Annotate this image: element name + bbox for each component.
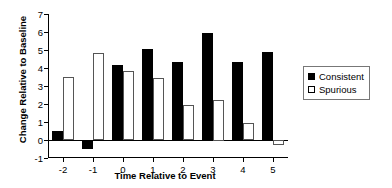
y-tick-mark bbox=[44, 68, 48, 69]
x-tick-mark bbox=[273, 158, 274, 162]
bar-spurious-3 bbox=[213, 100, 224, 141]
x-axis-spine bbox=[48, 157, 288, 158]
legend-label-spurious: Spurious bbox=[319, 84, 357, 95]
y-tick-mark bbox=[44, 86, 48, 87]
x-tick-mark bbox=[243, 158, 244, 162]
bar-consistent-5 bbox=[262, 52, 273, 140]
y-axis-spine bbox=[48, 14, 49, 158]
bar-chart-figure: Change Relative to Baseline -101234567 -… bbox=[0, 0, 392, 188]
bar-consistent-3 bbox=[202, 33, 213, 140]
x-axis-label: Time Relative to Event bbox=[40, 170, 290, 181]
x-tick-mark bbox=[123, 158, 124, 162]
bar-consistent--1 bbox=[82, 140, 93, 149]
legend-entry-spurious: Spurious bbox=[308, 83, 364, 96]
y-tick-label: 7 bbox=[38, 9, 43, 20]
y-tick-label: 1 bbox=[38, 117, 43, 128]
y-tick-label: -1 bbox=[35, 153, 43, 164]
filled-square-icon bbox=[308, 73, 315, 80]
bar-spurious--2 bbox=[63, 77, 74, 140]
y-tick-mark bbox=[44, 32, 48, 33]
y-tick-mark bbox=[44, 140, 48, 141]
bar-consistent-2 bbox=[172, 62, 183, 140]
y-tick-mark bbox=[44, 14, 48, 15]
y-tick-mark bbox=[44, 122, 48, 123]
y-tick-mark bbox=[44, 50, 48, 51]
bar-spurious-5 bbox=[273, 140, 284, 145]
bar-spurious--1 bbox=[93, 53, 104, 140]
x-tick-mark bbox=[93, 158, 94, 162]
bar-spurious-1 bbox=[153, 78, 164, 140]
x-tick-mark bbox=[213, 158, 214, 162]
bar-consistent-4 bbox=[232, 62, 243, 140]
bar-consistent--2 bbox=[52, 131, 63, 140]
chart-legend: Consistent Spurious bbox=[303, 66, 370, 100]
legend-label-consistent: Consistent bbox=[319, 71, 364, 82]
y-tick-label: 4 bbox=[38, 63, 43, 74]
y-tick-label: 2 bbox=[38, 99, 43, 110]
legend-entry-consistent: Consistent bbox=[308, 70, 364, 83]
x-tick-mark bbox=[153, 158, 154, 162]
y-tick-label: 6 bbox=[38, 27, 43, 38]
y-tick-label: 3 bbox=[38, 81, 43, 92]
bar-consistent-1 bbox=[142, 49, 153, 140]
bar-spurious-2 bbox=[183, 105, 194, 140]
y-tick-mark bbox=[44, 104, 48, 105]
bar-consistent-0 bbox=[112, 65, 123, 140]
bar-spurious-4 bbox=[243, 123, 254, 140]
y-tick-label: 5 bbox=[38, 45, 43, 56]
y-tick-mark bbox=[44, 158, 48, 159]
bar-spurious-0 bbox=[123, 71, 134, 140]
y-tick-label: 0 bbox=[38, 135, 43, 146]
x-tick-mark bbox=[63, 158, 64, 162]
x-tick-mark bbox=[183, 158, 184, 162]
y-axis-label: Change Relative to Baseline bbox=[17, 0, 28, 160]
open-square-icon bbox=[308, 86, 315, 93]
plot-area: -101234567 -2-1012345 bbox=[48, 14, 288, 158]
